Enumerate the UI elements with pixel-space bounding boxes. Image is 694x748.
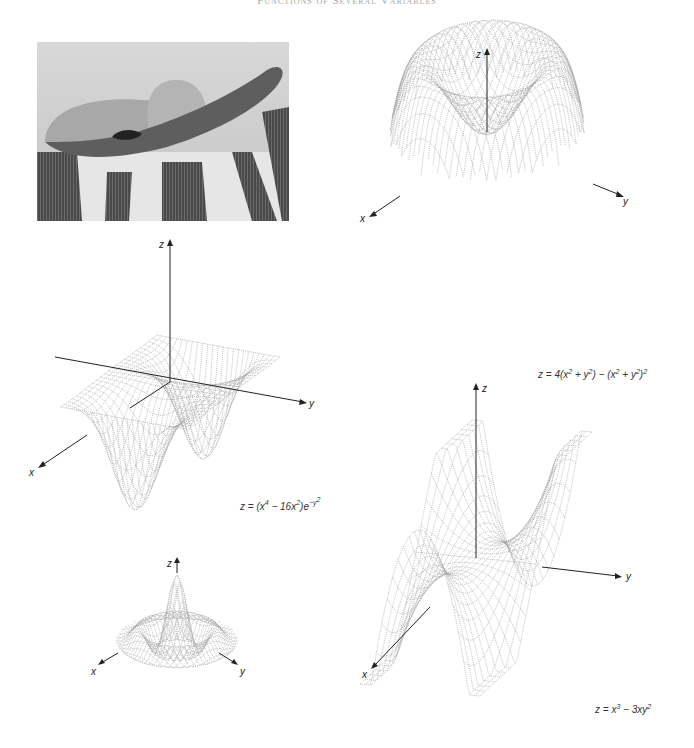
z-axis-label: z	[481, 383, 487, 394]
mesh-line	[463, 52, 577, 177]
x-axis-label: x	[359, 213, 366, 224]
mesh-line	[125, 622, 209, 664]
mesh-line	[160, 611, 235, 649]
y-axis-label: y	[239, 666, 246, 677]
mesh-line	[96, 380, 219, 415]
surface-mesh	[116, 575, 237, 668]
y-axis: y	[593, 184, 629, 207]
mesh-line	[145, 622, 229, 664]
mesh-line	[532, 129, 576, 173]
mesh-line	[469, 20, 584, 133]
z-axis: z	[166, 557, 180, 573]
mesh-line	[406, 22, 529, 148]
z-axis: z	[473, 383, 487, 558]
mesh-line	[132, 354, 255, 441]
y-axis: y	[542, 567, 632, 582]
mesh-line	[401, 21, 524, 156]
sombrero-photo	[37, 42, 289, 221]
mesh-line	[129, 608, 213, 663]
mesh-line	[117, 640, 177, 667]
y-axis-label: y	[308, 398, 315, 409]
mesh-line	[469, 431, 581, 695]
mesh-line	[117, 636, 183, 668]
mesh-line	[121, 615, 153, 629]
surface-plot-quartic-gauss: z y x	[35, 230, 320, 500]
surface-plot-monkey-saddle: z y x	[350, 380, 650, 710]
mesh-line	[386, 573, 506, 672]
x-axis-label: x	[28, 467, 35, 478]
mesh-line	[120, 611, 195, 649]
x-axis-label: x	[90, 666, 97, 677]
y-axis-label: y	[622, 196, 629, 207]
mesh-line	[391, 21, 497, 146]
mesh-line	[168, 354, 264, 427]
mesh-line	[452, 439, 572, 546]
mesh-line	[396, 57, 526, 171]
mesh-line	[472, 420, 592, 586]
mesh-line	[449, 43, 572, 178]
mesh-line	[447, 444, 567, 543]
mesh-line	[112, 344, 208, 495]
mesh-line	[88, 387, 211, 456]
mesh-line	[519, 104, 581, 172]
mesh-line	[116, 365, 239, 388]
mesh-line	[136, 351, 259, 453]
mesh-line	[449, 23, 579, 137]
mesh-line	[421, 526, 541, 554]
mesh-line	[458, 483, 570, 640]
mesh-line	[392, 72, 502, 169]
caption-monkey-saddle: z = x3 − 3xy2	[595, 703, 651, 715]
mesh-line	[142, 608, 226, 663]
mesh-line	[76, 338, 172, 411]
x-axis: x	[90, 653, 118, 677]
z-axis-label: z	[475, 49, 481, 60]
z-axis-label: z	[158, 239, 164, 250]
mesh-line	[143, 350, 239, 472]
mesh-line	[119, 615, 162, 634]
mesh-line	[118, 632, 190, 667]
y-axis-label: y	[625, 571, 632, 582]
mesh-line	[475, 432, 587, 696]
mesh-line	[72, 399, 195, 510]
mesh-line	[171, 636, 237, 668]
mesh-line	[91, 341, 187, 434]
mesh-line	[164, 632, 236, 667]
mesh-line	[438, 37, 566, 174]
x-axis: x	[359, 196, 400, 224]
mesh-line	[371, 421, 483, 685]
mesh-line	[360, 530, 480, 696]
mesh-line	[413, 39, 552, 151]
z-axis: z	[158, 239, 173, 382]
mesh-line	[426, 533, 538, 585]
mesh-line	[396, 20, 510, 145]
mesh-line	[71, 337, 167, 409]
mesh-line	[177, 640, 237, 667]
mesh-line	[507, 88, 584, 173]
mesh-line	[455, 21, 580, 132]
z-axis-label: z	[166, 558, 172, 569]
y-axis: y	[219, 653, 246, 677]
mesh-line	[396, 573, 516, 663]
mesh-line	[128, 357, 251, 426]
mesh-line	[456, 47, 575, 176]
mesh-line	[148, 342, 271, 439]
running-head: Functions of Several Variables	[0, 0, 694, 6]
caption-quartic-gauss: z = (x4 − 16x2)e−y2	[240, 496, 320, 512]
caption-radial-quartic: z = 4(x2 + y2) − (x2 + y2)2	[538, 368, 647, 380]
mesh-line	[68, 402, 191, 499]
mesh-line	[192, 615, 235, 634]
mesh-line	[399, 20, 518, 149]
mesh-line	[426, 31, 565, 146]
x-axis: x	[361, 607, 430, 680]
mesh-line	[173, 355, 269, 427]
mesh-line	[201, 615, 233, 629]
mesh-line	[462, 430, 582, 560]
mesh-line	[457, 434, 577, 551]
surface-plot-radial-quartic: z x y	[310, 40, 650, 385]
mesh-line	[418, 27, 546, 155]
mesh-line	[390, 27, 478, 131]
mesh-line	[401, 570, 521, 642]
x-axis-label: x	[361, 669, 368, 680]
surface-plot-sombrero: z x y	[85, 555, 275, 725]
mesh-line	[375, 565, 495, 682]
